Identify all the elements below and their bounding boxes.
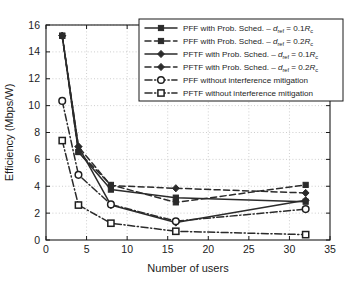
data-point-5-1 <box>75 202 81 208</box>
x-tick-label: 10 <box>121 243 133 255</box>
data-point-5-3 <box>173 228 179 234</box>
y-tick-label: 6 <box>34 153 40 165</box>
legend-label-1: PFF with Prob. Sched. – dref = 0.2Rc <box>183 37 313 47</box>
data-point-4-3 <box>173 218 180 225</box>
data-point-1-4 <box>303 182 308 187</box>
data-point-4-2 <box>108 201 115 208</box>
efficiency-vs-users-line-chart: 051015202530350246810121416Number of use… <box>0 0 352 287</box>
y-tick-label: 4 <box>34 180 40 192</box>
data-point-5-0 <box>59 137 65 143</box>
x-tick-label: 5 <box>84 243 90 255</box>
y-tick-label: 8 <box>34 126 40 138</box>
chart-figure: 051015202530350246810121416Number of use… <box>0 0 352 287</box>
legend-marker-1 <box>158 38 163 43</box>
x-tick-label: 30 <box>284 243 296 255</box>
legend-label-3: PFTF with Prob. Sched. – dref = 0.2Rc <box>183 63 318 73</box>
data-point-1-3 <box>173 200 178 205</box>
legend-label-5: PFTF without interference mitigation <box>183 89 313 98</box>
x-tick-label: 0 <box>43 243 49 255</box>
y-tick-label: 0 <box>34 234 40 246</box>
data-point-5-4 <box>303 232 309 238</box>
data-point-4-1 <box>75 172 82 179</box>
y-tick-label: 10 <box>28 99 40 111</box>
data-point-4-4 <box>302 206 309 213</box>
y-tick-label: 12 <box>28 72 40 84</box>
legend: PFF with Prob. Sched. – dref = 0.1RcPFF … <box>139 19 343 101</box>
legend-label-4: PFF without interference mitigation <box>183 76 308 85</box>
y-tick-label: 2 <box>34 207 40 219</box>
data-point-5-2 <box>108 220 114 226</box>
x-tick-label: 25 <box>243 243 255 255</box>
legend-label-0: PFF with Prob. Sched. – dref = 0.1Rc <box>183 24 313 34</box>
legend-label-2: PFTF with Prob. Sched. – dref = 0.1Rc <box>183 50 318 60</box>
y-tick-label: 16 <box>28 19 40 31</box>
y-tick-label: 14 <box>28 45 40 57</box>
x-tick-label: 35 <box>324 243 336 255</box>
legend-marker-0 <box>158 25 163 30</box>
data-point-4-0 <box>59 98 66 105</box>
legend-marker-4 <box>158 77 165 84</box>
x-tick-label: 20 <box>202 243 214 255</box>
x-axis-title: Number of users <box>147 262 229 274</box>
y-axis-title: Efficiency (Mbps/W) <box>3 84 15 182</box>
legend-marker-5 <box>158 90 164 96</box>
x-tick-label: 15 <box>162 243 174 255</box>
